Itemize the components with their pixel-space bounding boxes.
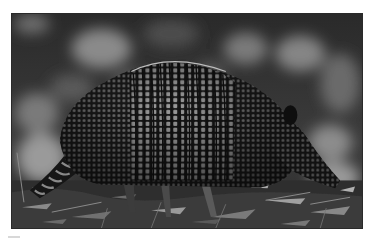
armadillo-photo (11, 13, 363, 229)
ear (283, 105, 297, 125)
armadillo-scene (12, 14, 362, 228)
caption-mark (8, 236, 20, 238)
